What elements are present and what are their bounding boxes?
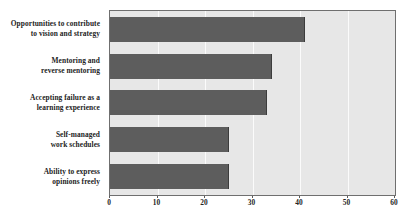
category-axis: Opportunities to contribute to vision an… [0, 10, 105, 196]
axis-tick-label: 50 [343, 198, 350, 207]
bar [110, 54, 272, 79]
bar-row [110, 11, 395, 48]
value-axis: 0102030405060 [109, 196, 396, 210]
axis-tick-label: 60 [390, 198, 397, 207]
category-label-row: Ability to express opinions freely [0, 159, 105, 196]
bars-layer [110, 11, 395, 195]
bar [110, 17, 305, 42]
axis-tick-label: 20 [200, 198, 207, 207]
bar-row [110, 158, 395, 195]
gridline [395, 11, 396, 195]
bar-row [110, 85, 395, 122]
category-label: Ability to express opinions freely [44, 167, 100, 187]
category-label-row: Mentoring and reverse mentoring [0, 47, 105, 84]
axis-tick-label: 10 [153, 198, 160, 207]
category-label: Opportunities to contribute to vision an… [11, 19, 100, 39]
bar [110, 127, 229, 152]
bar [110, 90, 267, 115]
bar-chart-figure: Opportunities to contribute to vision an… [0, 0, 410, 224]
category-label-row: Opportunities to contribute to vision an… [0, 10, 105, 47]
category-label: Self-managed work schedules [51, 130, 100, 150]
category-label-row: Self-managed work schedules [0, 122, 105, 159]
bar-row [110, 48, 395, 85]
axis-tick-label: 40 [295, 198, 302, 207]
axis-tick-label: 30 [248, 198, 255, 207]
axis-tick-label: 0 [107, 198, 111, 207]
category-label: Accepting failure as a learning experien… [30, 93, 100, 113]
plot-area [109, 10, 396, 196]
bar [110, 164, 229, 189]
bar-row [110, 121, 395, 158]
category-label: Mentoring and reverse mentoring [41, 56, 100, 76]
category-label-row: Accepting failure as a learning experien… [0, 84, 105, 121]
